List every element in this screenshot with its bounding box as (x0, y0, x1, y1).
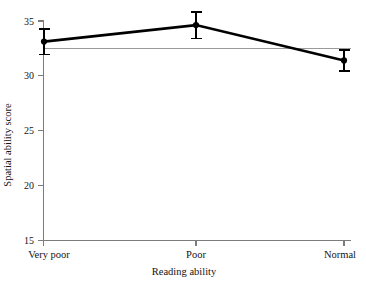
data-point-very-poor (41, 39, 47, 45)
x-tick-label-very-poor: Very poor (28, 249, 70, 260)
x-axis-title: Reading ability (152, 266, 217, 277)
x-tick-label-poor: Poor (186, 249, 206, 260)
x-axis-tick-labels: Very poor Poor Normal (28, 249, 356, 260)
y-tick-label-30: 30 (24, 70, 34, 81)
y-axis-tick-labels: 35 30 25 20 15 (24, 16, 34, 247)
y-tick-label-25: 25 (24, 125, 34, 136)
y-tick-label-15: 15 (24, 235, 34, 246)
spatial-ability-line-chart: 35 30 25 20 15 Very poor Poor Normal Rea… (0, 0, 366, 289)
series-line-spatial-ability (44, 25, 344, 60)
data-point-normal (341, 57, 347, 63)
data-point-poor (193, 22, 199, 28)
x-axis-ticks (44, 241, 345, 247)
y-tick-label-20: 20 (24, 180, 34, 191)
chart-container: 35 30 25 20 15 Very poor Poor Normal Rea… (0, 0, 366, 289)
y-tick-label-35: 35 (24, 16, 34, 27)
y-axis-title: Spatial ability score (2, 103, 13, 187)
x-tick-label-normal: Normal (324, 249, 356, 260)
